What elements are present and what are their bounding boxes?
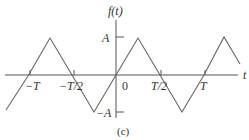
triangular-wave-figure: f(t) t A −A −T −T/2 0 T/2 T (c) [0, 0, 249, 140]
label-minus-T-half: −T/2 [59, 79, 83, 93]
label-T-half: T/2 [151, 79, 167, 93]
label-T: T [200, 79, 208, 93]
label-minus-A: −A [96, 106, 112, 120]
label-zero: 0 [122, 79, 128, 93]
figure-caption: (c) [117, 125, 130, 138]
x-axis-label: t [243, 68, 247, 82]
y-axis-label: f(t) [108, 4, 123, 18]
label-A: A [101, 31, 110, 45]
label-minus-T: −T [25, 79, 41, 93]
